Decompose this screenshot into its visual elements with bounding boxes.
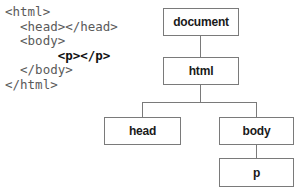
node-html: html: [163, 57, 239, 85]
code-line-p: <p></p>: [5, 49, 118, 64]
edge-to-body: [256, 102, 257, 117]
edge-to-head: [142, 102, 143, 117]
node-p-label: p: [253, 166, 260, 180]
code-line-html-open: <html>: [5, 5, 118, 20]
dom-tree-diagram: <html> <head></head> <body> <p></p> </bo…: [0, 0, 300, 189]
node-document-label: document: [173, 15, 229, 29]
html-code-listing: <html> <head></head> <body> <p></p> </bo…: [5, 5, 118, 93]
node-p: p: [219, 158, 294, 187]
code-line-html-close: </html>: [5, 78, 118, 93]
edge-horizontal-branch: [142, 102, 257, 103]
node-body-label: body: [243, 124, 271, 138]
code-line-head: <head></head>: [5, 20, 118, 35]
node-head: head: [104, 117, 181, 145]
edge-document-html: [200, 36, 201, 57]
node-body: body: [219, 117, 294, 145]
edge-html-down: [200, 84, 201, 103]
node-document: document: [163, 8, 239, 36]
edge-body-p: [256, 144, 257, 158]
node-html-label: html: [189, 64, 214, 78]
code-line-body-open: <body>: [5, 34, 118, 49]
code-line-body-close: </body>: [5, 63, 118, 78]
node-head-label: head: [129, 124, 156, 138]
